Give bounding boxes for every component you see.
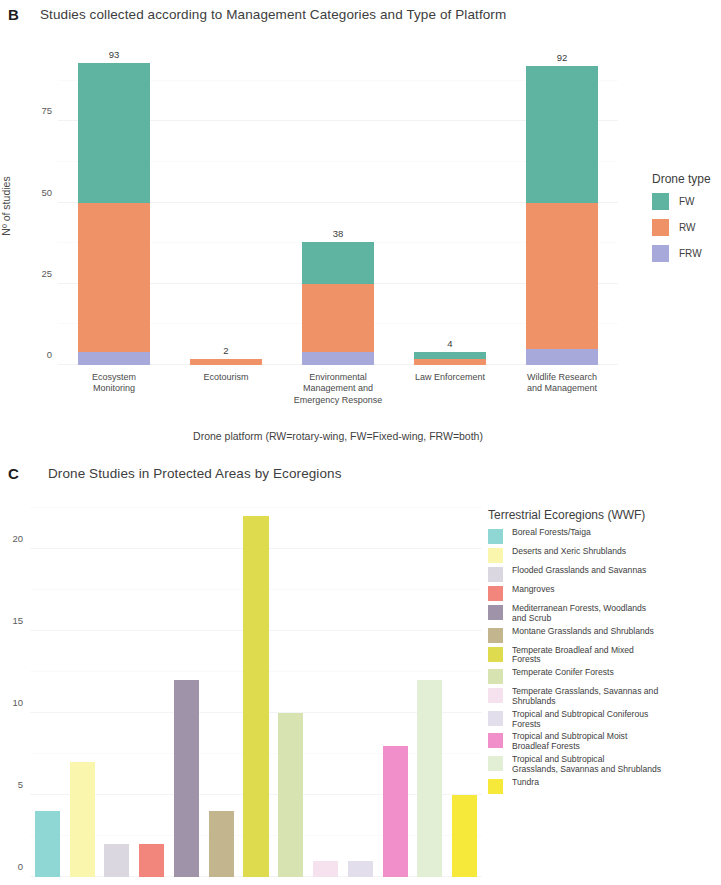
panel-c-legend-item[interactable]: Montane Grasslands and Shrublands [488, 627, 721, 643]
panel-b-y-tick: 0 [47, 349, 52, 360]
panel-c-bar[interactable] [278, 713, 303, 877]
panel-c-bar[interactable] [104, 844, 129, 877]
panel-c-legend-label-line: Temperate Conifer Forests [512, 668, 614, 678]
legend-swatch-icon [488, 688, 503, 703]
panel-c-bar[interactable] [417, 680, 442, 877]
panel-b-legend-label: FW [679, 196, 695, 207]
panel-b-category-label-line: Law Enforcement [394, 372, 506, 383]
panel-b-bar-segment-rw [526, 203, 598, 349]
panel-b-letter: B [8, 6, 19, 23]
panel-b-stacked-bar[interactable]: 93 [78, 63, 150, 365]
panel-c-bar[interactable] [348, 861, 373, 877]
panel-b-category-label-line: Emergency Response [282, 395, 394, 406]
panel-b-legend: Drone type FWRWFRW [652, 172, 721, 271]
panel-c-legend-label-line: Broadleaf Forests [512, 742, 627, 752]
panel-c-y-tick: 15 [12, 614, 23, 625]
panel-c-bar[interactable] [35, 811, 60, 877]
panel-c-legend-item[interactable]: Temperate Broadleaf and MixedForests [488, 646, 721, 666]
panel-c-legend-item[interactable]: Mediterranean Forests, Woodlandsand Scru… [488, 604, 721, 624]
panel-b-category-label-line: Management and [282, 383, 394, 394]
panel-c-legend-label: Temperate Broadleaf and MixedForests [512, 646, 634, 666]
panel-c-legend-label-line: Mangroves [512, 585, 555, 595]
panel-b-y-tick: 75 [41, 105, 52, 116]
panel-c-legend-label-line: Forests [512, 655, 634, 665]
panel-b-category-label-line: Monitoring [58, 383, 170, 394]
panel-c-legend-label-line: and Scrub [512, 614, 646, 624]
panel-c-y-tick: 0 [18, 861, 23, 872]
panel-b-bar-segment-rw [78, 203, 150, 353]
panel-c-legend-label-line: Deserts and Xeric Shrublands [512, 547, 626, 557]
panel-c-legend-label: Deserts and Xeric Shrublands [512, 547, 626, 557]
panel-c-legend-title: Terrestrial Ecoregions (WWF) [488, 508, 721, 522]
panel-b-y-axis-title: Nº of studies [0, 176, 12, 235]
panel-c-legend-item[interactable]: Temperate Grasslands, Savannas andShrubl… [488, 687, 721, 707]
panel-c-legend-label-line: Forests [512, 720, 648, 730]
panel-c-legend-label-line: Flooded Grasslands and Savannas [512, 566, 646, 576]
panel-b-stacked-bar[interactable]: 92 [526, 66, 598, 365]
panel-b-category-label: EcosystemMonitoring [58, 372, 170, 395]
panel-c-legend-item[interactable]: Temperate Conifer Forests [488, 668, 721, 684]
legend-swatch-icon [652, 245, 669, 262]
panel-b-category-label: EnvironmentalManagement andEmergency Res… [282, 372, 394, 406]
legend-swatch-icon [488, 647, 503, 662]
panel-c-legend-label-line: Shrublands [512, 697, 658, 707]
panel-c-legend-label-line: Boreal Forests/Taiga [512, 528, 591, 538]
panel-b-bar-total-label: 93 [109, 49, 120, 60]
panel-c-legend-label: Mediterranean Forests, Woodlandsand Scru… [512, 604, 646, 624]
panel-b-bar-segment-fw [526, 66, 598, 203]
panel-b-chart: B Studies collected according to Managem… [0, 0, 721, 450]
panel-c-legend-item[interactable]: Tropical and Subtropical MoistBroadleaf … [488, 732, 721, 752]
panel-c-bar[interactable] [70, 762, 95, 877]
panel-c-legend-item[interactable]: Tropical and SubtropicalGrasslands, Sava… [488, 755, 721, 775]
panel-c-legend-label: Boreal Forests/Taiga [512, 528, 591, 538]
legend-swatch-icon [488, 567, 503, 582]
legend-swatch-icon [488, 628, 503, 643]
panel-c-bar[interactable] [243, 516, 268, 877]
panel-c-legend-label-line: Grasslands, Savannas and Shrublands [512, 765, 661, 775]
panel-b-stacked-bar[interactable]: 38 [302, 242, 374, 366]
panel-c-bar[interactable] [383, 746, 408, 877]
panel-c-letter: C [8, 465, 19, 482]
panel-c-legend-label-line: Montane Grasslands and Shrublands [512, 627, 654, 637]
panel-b-x-axis-title: Drone platform (RW=rotary-wing, FW=Fixed… [58, 430, 618, 442]
legend-swatch-icon [488, 605, 503, 620]
panel-c-legend-item[interactable]: Tropical and Subtropical ConiferousFores… [488, 710, 721, 730]
panel-b-y-tick: 50 [41, 186, 52, 197]
panel-b-legend-label: FRW [679, 248, 702, 259]
panel-b-bar-segment-frw [78, 352, 150, 365]
panel-b-bar-segment-fw [302, 242, 374, 284]
panel-b-legend-item[interactable]: FW [652, 193, 721, 210]
panel-c-legend-item[interactable]: Mangroves [488, 585, 721, 601]
panel-c-legend-item[interactable]: Flooded Grasslands and Savannas [488, 566, 721, 582]
legend-swatch-icon [488, 711, 503, 726]
panel-b-legend-item[interactable]: RW [652, 219, 721, 236]
panel-b-category-label-line: Wildlife Research [506, 372, 618, 383]
panel-c-legend-item[interactable]: Deserts and Xeric Shrublands [488, 547, 721, 563]
panel-c-legend-label: Temperate Conifer Forests [512, 668, 614, 678]
panel-c-bar[interactable] [452, 795, 477, 877]
panel-b-stacked-bar[interactable]: 2 [190, 359, 262, 366]
legend-swatch-icon [488, 756, 503, 771]
panel-c-bar[interactable] [209, 811, 234, 877]
panel-c-legend-label: Tropical and Subtropical ConiferousFores… [512, 710, 648, 730]
panel-c-legend-label: Flooded Grasslands and Savannas [512, 566, 646, 576]
panel-c-legend-item[interactable]: Boreal Forests/Taiga [488, 528, 721, 544]
legend-swatch-icon [488, 548, 503, 563]
panel-c-bar[interactable] [313, 861, 338, 877]
panel-c-y-tick: 20 [12, 532, 23, 543]
legend-swatch-icon [652, 193, 669, 210]
panel-c-bar[interactable] [139, 844, 164, 877]
panel-c-legend-item[interactable]: Tundra [488, 778, 721, 794]
panel-b-bar-segment-rw [414, 359, 486, 366]
panel-b-bar-segment-frw [526, 349, 598, 365]
panel-b-legend-item[interactable]: FRW [652, 245, 721, 262]
panel-b-stacked-bar[interactable]: 4 [414, 352, 486, 365]
panel-b-bar-segment-fw [78, 63, 150, 203]
panel-c-y-tick: 5 [18, 778, 23, 789]
panel-c-bar[interactable] [174, 680, 199, 877]
panel-b-legend-title: Drone type [652, 172, 721, 186]
gridline-minor [30, 507, 482, 508]
panel-b-category-label: Wildlife Researchand Management [506, 372, 618, 395]
panel-b-bar-segment-frw [302, 352, 374, 365]
panel-c-legend-label: Temperate Grasslands, Savannas andShrubl… [512, 687, 658, 707]
